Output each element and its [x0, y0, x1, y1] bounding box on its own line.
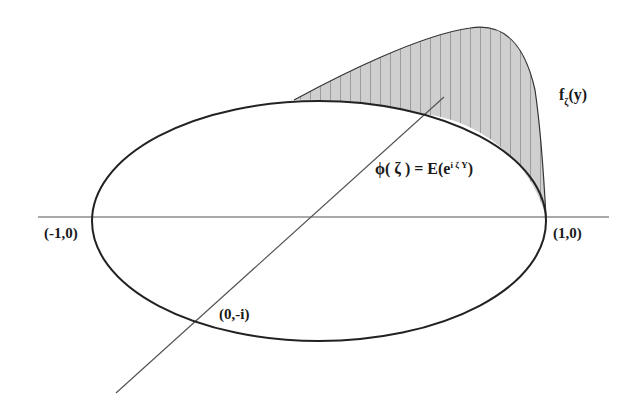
phi-rhs: )	[468, 160, 473, 177]
diagram-canvas	[0, 0, 643, 415]
label-minus-i: (0,-i)	[219, 306, 249, 323]
unit-circle	[92, 101, 546, 341]
imaginary-axis	[116, 97, 444, 393]
density-shaded-region	[294, 27, 546, 217]
phi-lhs: ϕ( ζ ) = E(e	[375, 160, 450, 177]
label-plus-one: (1,0)	[553, 225, 582, 242]
label-minus-one: (-1,0)	[44, 225, 78, 242]
density-subscript: ζ	[564, 96, 568, 107]
label-density: fζ(y)	[559, 86, 587, 104]
density-arg: (y)	[568, 86, 587, 103]
phi-exponent: i ζ Y	[450, 160, 467, 170]
label-characteristic-function: ϕ( ζ ) = E(ei ζ Y)	[375, 160, 473, 178]
